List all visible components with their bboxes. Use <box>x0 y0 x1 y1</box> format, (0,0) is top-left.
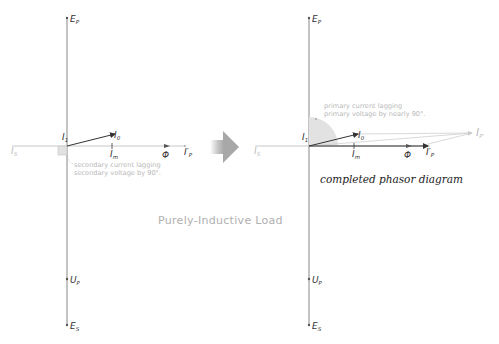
label-is: IS <box>254 146 261 157</box>
phasor-diagram-canvas: EP ES UP I1 I0 Im Φ I′P IS secondary cur… <box>0 0 499 344</box>
label-phi: Φ <box>404 150 411 160</box>
label-es: ES <box>70 321 80 332</box>
label-up: UP <box>312 275 323 286</box>
phase-angle-sector <box>309 117 338 146</box>
diagram-title: Purely-Inductive Load <box>158 214 283 227</box>
label-i1: I1 <box>302 132 308 143</box>
transition-arrow-icon <box>210 131 239 163</box>
label-ep: EP <box>312 14 322 25</box>
completed-caption: completed phasor diagram <box>320 173 463 185</box>
label-ip: IP' <box>476 126 484 139</box>
label-up: UP <box>70 275 81 286</box>
label-im: Im <box>110 149 118 160</box>
primary-note-line1: primary current lagging <box>324 102 402 110</box>
label-i0: I0 <box>358 130 365 141</box>
secondary-note-line1: secondary current lagging <box>74 161 161 169</box>
label-ip-prime: I′P <box>426 147 435 158</box>
label-i0: I0 <box>114 130 121 141</box>
label-ip-prime: I′P <box>184 147 193 158</box>
label-is: IS <box>11 146 18 157</box>
primary-note-line2: primary voltage by nearly 90°. <box>324 110 425 118</box>
label-ep: EP <box>70 14 80 25</box>
secondary-note-line2: secondary voltage by 90°. <box>74 169 161 177</box>
right-angle-marker <box>58 146 67 155</box>
i0-vector <box>67 134 115 146</box>
label-es: ES <box>312 321 322 332</box>
label-im: Im <box>352 149 360 160</box>
left-phasor-panel: EP ES UP I1 I0 Im Φ I′P IS secondary cur… <box>11 14 193 332</box>
right-phasor-panel: EP ES UP I1 I0 Im Φ I′P IS IP' primary c… <box>254 14 484 332</box>
label-phi: Φ <box>162 150 169 160</box>
